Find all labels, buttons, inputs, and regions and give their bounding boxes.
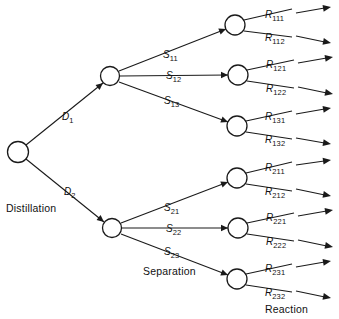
- branch-d1-subscript: 1: [69, 116, 73, 125]
- edge-root-d2-arrowhead-icon: [97, 215, 104, 222]
- branch-s12-symbol: S: [166, 70, 173, 81]
- outcome-r111-label: R111: [265, 10, 284, 20]
- node-separation-d2: [103, 219, 122, 238]
- outcome-r111-subscript: 111: [272, 14, 284, 23]
- terminal-arrow-r111-arrowhead-icon: [323, 5, 331, 12]
- terminal-arrow-r122-shaft: [298, 87, 328, 93]
- branch-s13-symbol: S: [164, 95, 171, 106]
- terminal-arrow-r111-shaft: [296, 8, 326, 13]
- terminal-arrow-r221-arrowhead-icon: [325, 208, 333, 215]
- branch-s23-subscript: 23: [171, 251, 180, 260]
- terminal-arrow-r132-shaft: [296, 138, 326, 143]
- stage-label-separation: Separation: [143, 266, 196, 277]
- terminal-arrow-r131-shaft: [296, 109, 326, 114]
- outcome-r121-label: R121: [266, 60, 286, 70]
- terminal-arrows-group: [296, 5, 333, 300]
- outcome-r211-label: R211: [265, 163, 285, 173]
- branch-s22-subscript: 22: [173, 228, 182, 237]
- outcome-r122-label: R122: [266, 84, 286, 94]
- terminal-arrow-r131-arrowhead-icon: [323, 106, 331, 113]
- terminal-arrow-r212-shaft: [296, 189, 326, 195]
- terminal-arrow-r121-arrowhead-icon: [325, 55, 333, 62]
- outcome-r212-label: R212: [265, 187, 285, 197]
- node-reaction-s13: [227, 116, 247, 136]
- node-separation-d1: [101, 67, 120, 86]
- terminal-arrow-r222-shaft: [298, 240, 328, 246]
- node-reaction-s21: [227, 168, 247, 188]
- terminal-arrow-r231-shaft: [296, 262, 326, 267]
- node-reaction-s12: [228, 65, 248, 85]
- outcome-r231-label: R231: [265, 264, 285, 274]
- outcome-r131-label: R131: [265, 112, 285, 122]
- stage-label-distillation: Distillation: [6, 203, 56, 214]
- branch-s13-subscript: 13: [171, 100, 180, 109]
- node-reaction-s22: [228, 218, 248, 238]
- edges-group: [26, 9, 294, 292]
- terminal-arrow-r231-arrowhead-icon: [323, 259, 331, 266]
- terminal-arrow-r132-arrowhead-icon: [323, 139, 331, 146]
- outcome-r222-label: R222: [266, 237, 286, 247]
- branch-d2-label: D2: [64, 187, 76, 197]
- edge-d2-s22-arrowhead-icon: [221, 225, 228, 231]
- outcome-r122-subscript: 122: [273, 88, 286, 97]
- outcome-r132-subscript: 132: [272, 139, 285, 148]
- terminal-arrow-r232-arrowhead-icon: [322, 293, 331, 300]
- outcome-r132-label: R132: [265, 135, 285, 145]
- outcome-r221-label: R221: [266, 213, 286, 223]
- edge-root-d1-arrowhead-icon: [96, 83, 103, 90]
- branch-s11-label: S11: [163, 50, 178, 60]
- terminal-arrow-r221-shaft: [298, 211, 328, 216]
- outcome-r131-subscript: 131: [272, 116, 285, 125]
- terminal-arrow-r211-arrowhead-icon: [323, 158, 331, 165]
- outcome-r212-subscript: 212: [272, 191, 285, 200]
- branch-s21-subscript: 21: [171, 207, 180, 216]
- outcome-r232-subscript: 232: [272, 292, 285, 301]
- terminal-arrow-r112-arrowhead-icon: [322, 38, 331, 45]
- outcome-r121-subscript: 121: [273, 64, 286, 73]
- branch-d1-label: D1: [62, 112, 74, 122]
- branch-s23-label: S23: [164, 247, 179, 257]
- edge-d1-s12-arrowhead-icon: [221, 72, 228, 78]
- branch-s11-subscript: 11: [170, 54, 178, 63]
- terminal-arrow-r212-arrowhead-icon: [322, 191, 331, 198]
- edge-d2-s23-arrowhead-icon: [220, 270, 228, 276]
- outcome-r112-subscript: 112: [272, 37, 285, 46]
- terminal-arrow-r121-shaft: [298, 58, 328, 63]
- node-root-distillation: [8, 142, 29, 163]
- node-reaction-s11: [225, 15, 245, 35]
- node-reaction-s23: [227, 269, 247, 289]
- terminal-arrow-r222-arrowhead-icon: [324, 242, 333, 249]
- decision-tree-figure: D1D2S11S12S13S21S22S23R111R112R121R122R1…: [0, 0, 339, 319]
- outcome-r231-subscript: 231: [272, 268, 285, 277]
- outcome-r112-label: R112: [265, 33, 285, 43]
- stage-label-reaction: Reaction: [265, 304, 308, 315]
- edge-d1-s13-arrowhead-icon: [220, 117, 228, 123]
- branch-s12-subscript: 12: [173, 75, 182, 84]
- outcome-r232-label: R232: [265, 288, 285, 298]
- branch-s22-symbol: S: [166, 223, 173, 234]
- terminal-arrow-r211-shaft: [296, 161, 326, 165]
- terminal-arrow-r122-arrowhead-icon: [324, 89, 333, 96]
- branch-d2-subscript: 2: [71, 191, 75, 200]
- branch-s21-symbol: S: [164, 202, 171, 213]
- outcome-r222-subscript: 222: [273, 241, 286, 250]
- nodes-group: [8, 15, 249, 289]
- branch-s11-symbol: S: [163, 49, 170, 60]
- outcome-r221-subscript: 221: [273, 217, 286, 226]
- branch-s23-symbol: S: [164, 246, 171, 257]
- terminal-arrow-r232-shaft: [296, 291, 326, 297]
- outcome-r211-subscript: 211: [272, 167, 285, 176]
- branch-s13-label: S13: [164, 96, 179, 106]
- branch-s22-label: S22: [166, 224, 181, 234]
- branch-s21-label: S21: [164, 203, 179, 213]
- branch-s12-label: S12: [166, 71, 181, 81]
- terminal-arrow-r112-shaft: [296, 36, 326, 42]
- edge-d2-s21-arrowhead-icon: [220, 182, 228, 188]
